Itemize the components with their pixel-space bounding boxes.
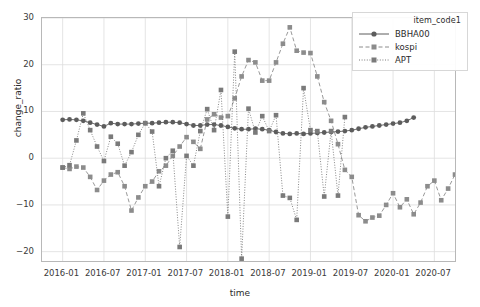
series-marker-apt — [219, 88, 224, 93]
series-marker-bbha00 — [88, 120, 93, 125]
y-tick-label: 10 — [2, 105, 34, 115]
series-marker-kospi — [95, 188, 100, 193]
x-tick-label: 2016-01 — [44, 268, 80, 278]
y-tick-label: −10 — [2, 199, 34, 209]
series-marker-apt — [281, 193, 286, 198]
series-marker-bbha00 — [239, 127, 244, 132]
series-marker-kospi — [384, 203, 389, 208]
series-marker-kospi — [205, 117, 210, 122]
series-marker-apt — [81, 111, 86, 116]
series-marker-bbha00 — [322, 130, 327, 135]
series-marker-bbha00 — [122, 122, 127, 127]
x-tick-label: 2020-01 — [374, 268, 410, 278]
series-marker-kospi — [129, 208, 134, 213]
series-marker-kospi — [294, 48, 299, 53]
series-marker-bbha00 — [184, 122, 189, 127]
series-marker-bbha00 — [370, 124, 375, 129]
series-marker-bbha00 — [281, 131, 286, 136]
series-marker-kospi — [88, 175, 93, 180]
series-marker-kospi — [398, 205, 403, 210]
series-marker-apt — [129, 150, 134, 155]
x-tick-label: 2016-07 — [85, 268, 121, 278]
series-marker-kospi — [198, 147, 203, 152]
legend-swatch-kospi — [357, 41, 391, 53]
series-marker-bbha00 — [391, 121, 396, 126]
series-marker-bbha00 — [232, 126, 237, 131]
series-marker-kospi — [418, 200, 423, 205]
legend-swatch-bbha00 — [357, 28, 391, 40]
series-marker-kospi — [411, 212, 416, 217]
x-tick-label: 2019-07 — [333, 268, 369, 278]
series-marker-kospi — [260, 78, 265, 83]
series-marker-bbha00 — [398, 120, 403, 125]
series-marker-kospi — [439, 198, 444, 203]
series-marker-apt — [253, 130, 258, 135]
series-marker-kospi — [184, 135, 189, 140]
legend-item-kospi[interactable]: kospi — [357, 40, 463, 53]
series-marker-kospi — [363, 219, 368, 224]
series-marker-apt — [170, 148, 175, 153]
series-marker-apt — [315, 129, 320, 134]
series-marker-bbha00 — [67, 117, 72, 122]
x-tick-label: 2018-07 — [250, 268, 286, 278]
series-marker-kospi — [177, 144, 182, 149]
series-marker-bbha00 — [377, 123, 382, 128]
series-marker-bbha00 — [170, 120, 175, 125]
series-marker-kospi — [136, 195, 141, 200]
legend-swatch-apt — [357, 54, 391, 66]
legend-title: item_code1 — [357, 16, 463, 25]
series-marker-apt — [143, 121, 148, 126]
series-marker-kospi — [308, 51, 313, 56]
series-marker-apt — [122, 163, 127, 168]
series-marker-apt — [184, 154, 189, 159]
series-marker-apt — [294, 218, 299, 223]
series-marker-apt — [88, 128, 93, 133]
series-marker-kospi — [301, 50, 306, 55]
series-marker-kospi — [212, 112, 217, 117]
legend-label-kospi: kospi — [391, 42, 417, 52]
series-marker-bbha00 — [95, 122, 100, 127]
series-marker-apt — [232, 49, 237, 54]
series-marker-kospi — [453, 172, 455, 177]
series-marker-apt — [109, 134, 114, 139]
series-marker-kospi — [288, 25, 293, 30]
series-marker-kospi — [322, 100, 327, 105]
series-marker-bbha00 — [349, 128, 354, 133]
series-marker-bbha00 — [404, 118, 409, 123]
series-marker-bbha00 — [246, 127, 251, 132]
series-marker-kospi — [143, 184, 148, 189]
x-tick-label: 2020-07 — [415, 268, 451, 278]
series-marker-bbha00 — [177, 120, 182, 125]
y-tick-label: −20 — [2, 246, 34, 256]
series-marker-kospi — [150, 179, 155, 184]
series-marker-kospi — [239, 74, 244, 79]
series-marker-bbha00 — [336, 129, 341, 134]
series-marker-kospi — [267, 78, 272, 83]
series-marker-bbha00 — [225, 124, 230, 129]
series-marker-kospi — [315, 74, 320, 79]
y-tick-label: 30 — [2, 12, 34, 22]
legend-item-bbha00[interactable]: BBHA00 — [357, 27, 463, 40]
series-marker-kospi — [274, 60, 279, 65]
legend-label-apt: APT — [391, 55, 411, 65]
series-marker-bbha00 — [108, 121, 113, 126]
series-marker-apt — [226, 214, 231, 219]
series-marker-apt — [239, 256, 244, 261]
series-marker-kospi — [349, 175, 354, 180]
series-marker-kospi — [446, 186, 451, 191]
series-marker-apt — [267, 129, 272, 134]
series-marker-kospi — [81, 165, 86, 170]
series-marker-bbha00 — [150, 121, 155, 126]
series-marker-kospi — [109, 172, 114, 177]
legend-item-apt[interactable]: APT — [357, 53, 463, 66]
series-marker-apt — [136, 133, 141, 138]
series-marker-bbha00 — [384, 122, 389, 127]
series-marker-apt — [336, 193, 341, 198]
series-marker-apt — [260, 114, 265, 119]
series-marker-bbha00 — [287, 131, 292, 136]
series-marker-kospi — [343, 168, 348, 173]
series-marker-apt — [329, 129, 334, 134]
series-marker-kospi — [115, 170, 120, 175]
y-tick-label: 0 — [2, 152, 34, 162]
series-marker-kospi — [329, 119, 334, 124]
